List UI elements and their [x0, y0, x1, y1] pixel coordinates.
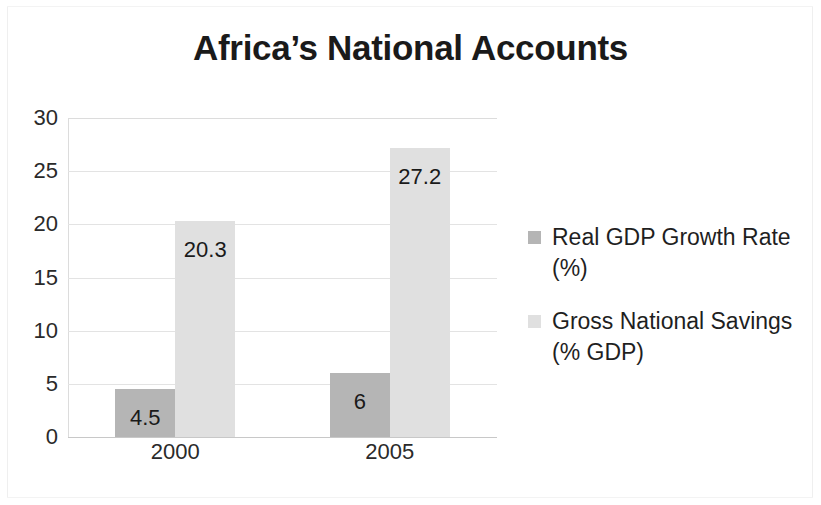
y-axis-tick-label: 0 — [3, 424, 58, 450]
x-axis-tick-label: 2005 — [365, 439, 414, 465]
bar: 27.2 — [390, 148, 450, 437]
bar: 4.5 — [115, 389, 175, 437]
legend-label: Real GDP Growth Rate(%) — [552, 222, 791, 284]
chart-figure: Africa’s National Accounts 051015202530 … — [0, 0, 821, 505]
x-axis-line — [68, 437, 497, 438]
bar: 6 — [330, 373, 390, 437]
bar-value-label: 20.3 — [175, 237, 235, 263]
plot-top-line — [68, 118, 497, 119]
bar-value-label: 27.2 — [390, 164, 450, 190]
bar-value-label: 6 — [330, 389, 390, 415]
y-axis: 051015202530 — [0, 118, 58, 437]
figure-border-bottom — [7, 497, 813, 498]
legend-entry: Gross National Savings(% GDP) — [528, 306, 813, 368]
x-axis-tick-label: 2000 — [151, 439, 200, 465]
chart-legend: Real GDP Growth Rate(%)Gross National Sa… — [528, 222, 813, 390]
figure-border-top — [7, 6, 813, 7]
y-axis-tick-label: 25 — [3, 158, 58, 184]
y-axis-tick-label: 20 — [3, 211, 58, 237]
y-axis-tick-label: 5 — [3, 371, 58, 397]
legend-label: Gross National Savings(% GDP) — [552, 306, 792, 368]
bar: 20.3 — [175, 221, 235, 437]
chart-title: Africa’s National Accounts — [0, 28, 821, 68]
y-axis-tick-label: 10 — [3, 318, 58, 344]
legend-swatch-icon — [528, 315, 541, 328]
bar-value-label: 4.5 — [115, 405, 175, 431]
plot-area: 4.520.3627.2 — [68, 118, 497, 437]
legend-swatch-icon — [528, 231, 541, 244]
y-axis-tick-label: 15 — [3, 265, 58, 291]
legend-entry: Real GDP Growth Rate(%) — [528, 222, 813, 284]
y-axis-tick-label: 30 — [3, 105, 58, 131]
